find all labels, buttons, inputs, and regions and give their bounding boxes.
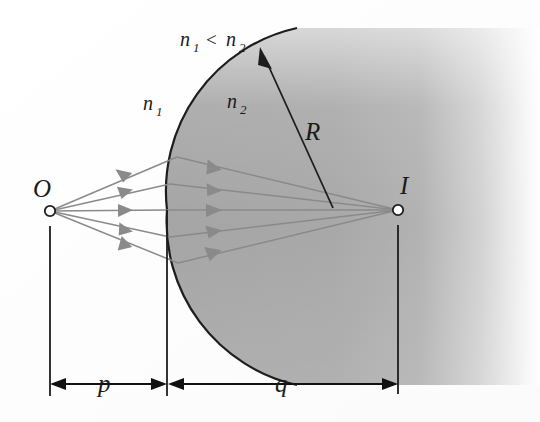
medium-n2-symbol: n <box>227 90 237 112</box>
inequality-n1-symbol: n <box>180 28 190 50</box>
medium-n1-subscript: 1 <box>156 104 163 119</box>
medium-n2-subscript: 2 <box>240 102 247 117</box>
refraction-diagram-figure: n 1 < n 2 n 1 n 2 R O I p q <box>0 0 540 422</box>
ray-3-incident <box>50 210 167 211</box>
medium-n2-region <box>166 28 540 385</box>
image-point-marker <box>393 205 403 215</box>
object-distance-label: p <box>96 370 111 397</box>
inequality-n2-subscript: 2 <box>239 40 246 55</box>
diagram-canvas: n 1 < n 2 n 1 n 2 R O I p q <box>0 0 540 422</box>
radius-label: R <box>304 118 320 145</box>
inequality-operator: < <box>206 29 217 50</box>
image-distance-label: q <box>275 370 288 397</box>
inequality-n2-symbol: n <box>226 28 236 50</box>
object-point-marker <box>45 206 55 216</box>
inequality-n1-subscript: 1 <box>193 40 200 55</box>
medium-n1-symbol: n <box>143 92 153 114</box>
object-point-label: O <box>33 175 51 202</box>
medium-n2-shading <box>166 28 540 385</box>
